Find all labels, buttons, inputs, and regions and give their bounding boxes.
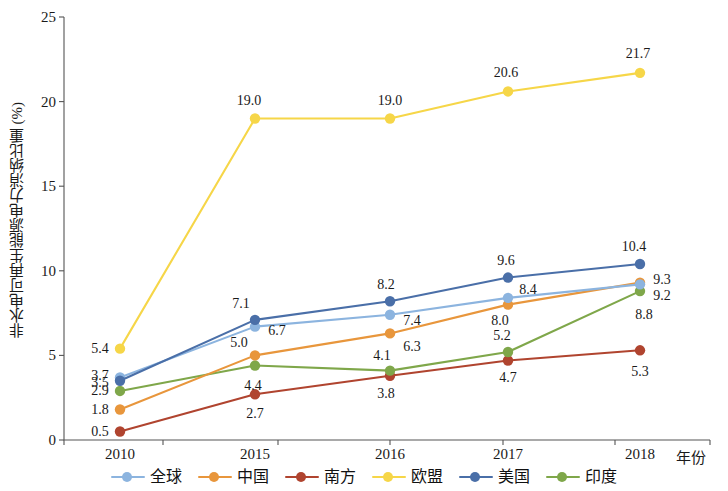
series-欧盟 [115, 68, 645, 354]
legend-marker-icon [372, 471, 406, 483]
series-line [120, 350, 640, 431]
series-line [120, 284, 640, 377]
data-point [503, 347, 513, 357]
legend-item-美国[interactable]: 美国 [459, 469, 530, 485]
data-point [385, 328, 395, 338]
data-point [115, 343, 125, 353]
series-line [120, 291, 640, 391]
data-point [250, 315, 260, 325]
plot-area [0, 0, 728, 491]
legend-dot [383, 472, 393, 482]
data-point [250, 360, 260, 370]
series-line [120, 73, 640, 349]
line-chart: 非水电可再生能源电力消纳比重 (%) 0510152025 2010201520… [0, 0, 728, 491]
legend-label: 南方 [324, 469, 356, 485]
data-point [503, 293, 513, 303]
data-point [635, 68, 645, 78]
data-point [503, 272, 513, 282]
data-point [250, 389, 260, 399]
data-point [250, 113, 260, 123]
y-tick-label: 25 [28, 9, 56, 26]
series-南方 [115, 345, 645, 437]
data-point [115, 376, 125, 386]
legend-dot [209, 472, 219, 482]
x-tick-label: 2016 [375, 446, 405, 463]
data-point [115, 426, 125, 436]
legend-label: 印度 [585, 469, 617, 485]
data-point [635, 345, 645, 355]
legend-dot [296, 472, 306, 482]
data-point [385, 310, 395, 320]
y-tick-label: 15 [28, 178, 56, 195]
y-tick-label: 20 [28, 93, 56, 110]
y-tick-label: 10 [28, 262, 56, 279]
data-point [503, 86, 513, 96]
legend-dot [470, 472, 480, 482]
data-point [385, 296, 395, 306]
data-point [385, 113, 395, 123]
legend-marker-icon [111, 471, 145, 483]
legend-dot [122, 472, 132, 482]
legend-marker-icon [459, 471, 493, 483]
legend-label: 全球 [150, 469, 182, 485]
legend-marker-icon [546, 471, 580, 483]
data-point [635, 279, 645, 289]
data-point [115, 404, 125, 414]
legend-label: 美国 [498, 469, 530, 485]
legend-label: 欧盟 [411, 469, 443, 485]
y-tick-label: 5 [28, 347, 56, 364]
legend-item-印度[interactable]: 印度 [546, 469, 617, 485]
series-美国 [115, 259, 645, 386]
data-point [250, 350, 260, 360]
y-axis-title-text: 非水电可再生能源电力消纳比重 (%) [10, 102, 25, 338]
legend-item-中国[interactable]: 中国 [198, 469, 269, 485]
y-axis-title: 非水电可再生能源电力消纳比重 (%) [2, 0, 32, 440]
legend-item-欧盟[interactable]: 欧盟 [372, 469, 443, 485]
x-tick-label: 2010 [105, 446, 135, 463]
series-line [120, 264, 640, 381]
legend-dot [557, 472, 567, 482]
x-tick-label: 2017 [493, 446, 523, 463]
legend-marker-icon [285, 471, 319, 483]
y-tick-label: 0 [28, 432, 56, 449]
x-tick-label: 2018 [625, 446, 655, 463]
data-point [115, 386, 125, 396]
chart-legend: 全球中国南方欧盟美国印度 [0, 462, 728, 491]
data-point [635, 259, 645, 269]
legend-marker-icon [198, 471, 232, 483]
legend-label: 中国 [237, 469, 269, 485]
data-point [385, 365, 395, 375]
legend-item-全球[interactable]: 全球 [111, 469, 182, 485]
legend-item-南方[interactable]: 南方 [285, 469, 356, 485]
x-tick-label: 2015 [240, 446, 270, 463]
